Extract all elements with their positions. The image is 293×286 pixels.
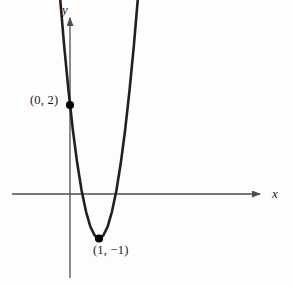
y-intercept-label: (0, 2) (30, 93, 58, 108)
y-intercept-point (66, 101, 74, 109)
parabola-figure: x y (0, 2) (1, −1) (0, 0, 293, 286)
x-axis-label: x (272, 186, 278, 202)
y-axis-label: y (62, 2, 68, 18)
vertex-label: (1, −1) (93, 243, 129, 258)
vertex-point (95, 234, 103, 242)
plot-canvas (0, 0, 293, 286)
parabola-curve (51, 0, 147, 239)
